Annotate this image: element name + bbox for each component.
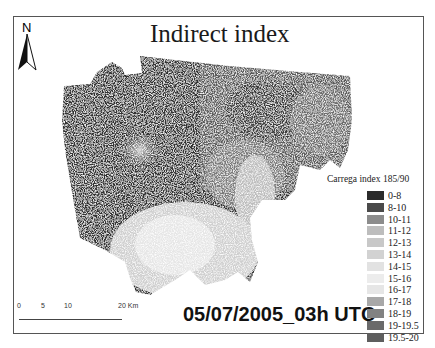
legend-label: 16-17	[388, 284, 411, 295]
scale-tick-20: 20 Km	[118, 302, 138, 309]
legend-item: 19-19.5	[367, 320, 419, 331]
legend-swatch	[367, 321, 384, 330]
north-arrow: N	[15, 20, 41, 76]
legend-swatch	[367, 250, 384, 259]
legend-item: 13-14	[367, 249, 411, 260]
legend-item: 17-18	[367, 296, 411, 307]
legend-item: 0-8	[367, 190, 401, 201]
legend-item: 11-12	[367, 225, 411, 236]
legend-swatch	[367, 226, 384, 235]
legend-swatch	[367, 203, 384, 212]
legend-item: 12-13	[367, 237, 411, 248]
legend-item: 8-10	[367, 202, 406, 213]
legend-label: 0-8	[388, 190, 401, 201]
scale-tick-0: 0	[17, 302, 21, 309]
scale-tick-5: 5	[41, 302, 45, 309]
legend-label: 15-16	[388, 273, 411, 284]
legend-item: 15-16	[367, 273, 411, 284]
legend-swatch	[367, 274, 384, 283]
legend-label: 12-13	[388, 237, 411, 248]
legend-label: 10-11	[388, 214, 411, 225]
legend-swatch	[367, 215, 384, 224]
timestamp: 05/07/2005_03h UTC	[183, 303, 375, 326]
legend-swatch	[367, 285, 384, 294]
scale-bar: 0 5 10 20 Km	[17, 300, 147, 330]
legend-title: Carrega index 185/90	[327, 174, 409, 184]
legend-label: 11-12	[388, 225, 411, 236]
legend-swatch	[367, 262, 384, 271]
legend-swatch	[367, 333, 384, 342]
legend-item: 16-17	[367, 284, 411, 295]
legend-label: 14-15	[388, 261, 411, 272]
north-label: N	[22, 20, 31, 35]
legend-item: 19.5-20	[367, 332, 419, 343]
legend-item: 18-19	[367, 308, 411, 319]
legend-swatch	[367, 238, 384, 247]
legend-label: 8-10	[388, 202, 406, 213]
legend-swatch	[367, 191, 384, 200]
legend-label: 13-14	[388, 249, 411, 260]
map-title: Indirect index	[150, 20, 290, 48]
legend-label: 19-19.5	[388, 320, 419, 331]
legend-item: 10-11	[367, 214, 411, 225]
legend-swatch	[367, 309, 384, 318]
legend-item: 14-15	[367, 261, 411, 272]
north-arrow-icon	[15, 34, 41, 74]
scale-tick-10: 10	[64, 302, 72, 309]
legend-label: 17-18	[388, 296, 411, 307]
legend-label: 19.5-20	[388, 332, 419, 343]
legend-swatch	[367, 297, 384, 306]
scale-bar-line	[19, 315, 122, 320]
legend-label: 18-19	[388, 308, 411, 319]
